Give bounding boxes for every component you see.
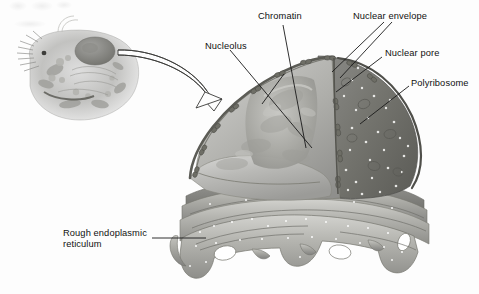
whole-cell-thumbnail bbox=[17, 16, 139, 120]
label-nuclear-pore: Nuclear pore bbox=[385, 48, 439, 59]
label-rough-endoplasmic-reticulum: Rough endoplasmic reticulum bbox=[63, 228, 147, 249]
label-polyribosome: Polyribosome bbox=[411, 78, 469, 89]
label-rough-er-line1: Rough endoplasmic bbox=[63, 228, 147, 238]
leader-envelope-a bbox=[332, 22, 384, 72]
label-nuclear-envelope: Nuclear envelope bbox=[353, 11, 427, 22]
label-nucleolus: Nucleolus bbox=[205, 41, 247, 52]
nucleus bbox=[190, 56, 421, 201]
label-chromatin: Chromatin bbox=[258, 11, 302, 22]
scan-artifacts bbox=[9, 1, 72, 28]
label-rough-er-line2: reticulum bbox=[63, 239, 102, 249]
